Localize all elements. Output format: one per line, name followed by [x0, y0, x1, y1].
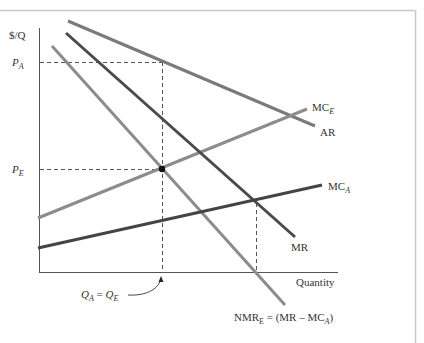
ar-line: [68, 21, 315, 126]
nmr-line: [52, 46, 285, 305]
mce-label: MCE: [312, 101, 334, 116]
nmr-label: NMRE = (MR – MCA): [234, 311, 333, 326]
mce-line: [38, 109, 307, 218]
arrow-head-icon: [159, 276, 164, 282]
chart: $/Q PA PE MCE AR MCA MR Quantity QA = QE…: [0, 0, 424, 343]
equilibrium-point: [159, 166, 165, 172]
pe-label: PE: [11, 163, 24, 178]
mr-line: [66, 33, 295, 237]
ar-label: AR: [320, 126, 336, 138]
pa-label: PA: [11, 56, 24, 71]
mca-label: MCA: [328, 180, 350, 195]
mr-label: MR: [291, 241, 309, 253]
mca-line: [38, 185, 322, 248]
y-axis-label: $/Q: [9, 29, 26, 41]
q-label: QA = QE: [81, 288, 119, 303]
q-arrow: [128, 279, 161, 295]
x-axis-label: Quantity: [296, 276, 335, 288]
